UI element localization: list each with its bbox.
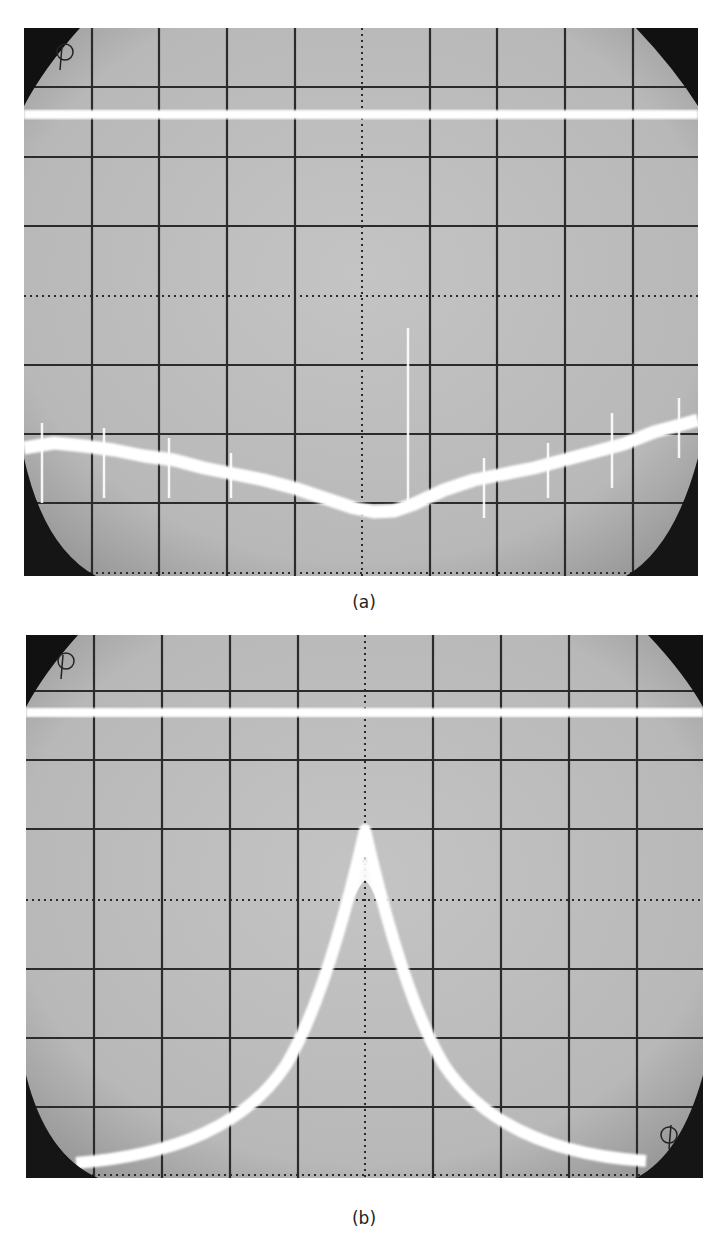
caption-a: (a) — [0, 592, 728, 612]
oscilloscope-panel-a — [24, 28, 698, 576]
oscilloscope-screen-a — [24, 28, 698, 576]
caption-b: (b) — [0, 1208, 728, 1228]
oscilloscope-panel-b — [26, 635, 703, 1178]
oscilloscope-screen-b — [26, 635, 703, 1178]
baseline-trace — [26, 708, 703, 717]
baseline-trace — [24, 110, 698, 119]
